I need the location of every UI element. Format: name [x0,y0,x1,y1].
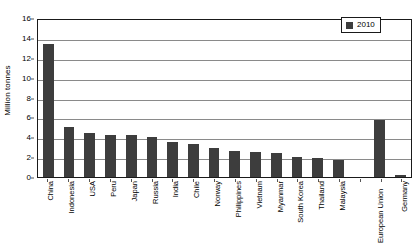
x-tick-label: European Union [376,181,385,243]
x-tick-mark [360,179,361,182]
x-tick-label: Chile [193,181,201,198]
bar [292,157,303,177]
bar [84,133,95,177]
bar-slot [59,20,80,177]
bar-slot [266,20,287,177]
bar-slot [245,20,266,177]
x-tick-label: India [172,181,180,197]
legend-swatch-2010 [346,22,353,29]
y-axis-tick-labels: 1614121086420 [14,14,34,179]
x-tick-slot: Myanmar [266,179,287,248]
bar-slot [100,20,121,177]
x-axis-tick-labels: ChinaIndonesiaUSAPeruJapanRussiaIndiaChi… [37,179,412,248]
x-tick-label: Myanmar [277,181,285,212]
bar [333,160,344,177]
bar [188,144,199,177]
x-tick-slot: European Union [370,179,391,248]
bar [395,175,406,177]
bar-slot [307,20,328,177]
y-tick-mark [31,19,34,20]
x-tick-label: Peru [110,181,118,197]
bar-slot [224,20,245,177]
x-tick-slot: Vietnam [245,179,266,248]
x-tick-label: Thailand [318,181,326,210]
x-tick-label: Indonesia [68,181,76,214]
bar-slot [328,20,349,177]
bars-container [38,20,411,177]
x-tick-slot: Norway [204,179,225,248]
y-axis-title-text: Million tonnes [3,65,12,115]
x-tick-label: Malaysia [339,181,347,211]
plot-area [37,19,412,178]
y-tick-mark [31,58,34,59]
x-tick-label: Norway [214,181,222,206]
x-tick-slot: Philippines [224,179,245,248]
x-tick-slot: Germany [391,179,412,248]
y-tick-mark [31,38,34,39]
bar [64,127,75,177]
x-tick-slot: South Korea [287,179,308,248]
bar-slot [38,20,59,177]
x-tick-label: Vietnam [256,181,264,208]
x-tick-slot [349,179,370,248]
x-tick-slot: India [162,179,183,248]
bar [374,120,385,177]
bar [271,153,282,177]
bar-slot [162,20,183,177]
x-tick-slot: USA [79,179,100,248]
bar [312,158,323,177]
bar [147,137,158,177]
x-tick-slot: Chile [183,179,204,248]
x-tick-label: Germany [401,181,409,212]
x-tick-label: Japan [131,181,139,201]
bar [105,135,116,177]
bar-slot [142,20,163,177]
x-tick-label: USA [89,181,97,196]
bar-chart: Million tonnes 1614121086420 2010 ChinaI… [0,0,417,248]
bar-slot [370,20,391,177]
x-tick-slot: China [37,179,58,248]
x-tick-label: South Korea [297,181,305,223]
y-tick-label: 16 [22,15,31,23]
x-tick-label: Philippines [235,181,243,217]
bar [43,44,54,177]
y-tick-label: 12 [22,55,31,63]
x-tick-slot: Peru [99,179,120,248]
y-tick-mark [31,98,34,99]
x-tick-slot: Thailand [308,179,329,248]
bar-slot-empty [349,20,370,177]
x-tick-label: China [47,181,55,201]
bar [167,142,178,177]
legend-label-2010: 2010 [357,21,375,29]
y-tick-mark [31,138,34,139]
bar-slot [79,20,100,177]
x-tick-slot: Russia [141,179,162,248]
x-tick-slot: Indonesia [58,179,79,248]
legend: 2010 [341,17,381,33]
y-tick-label: 10 [22,75,31,83]
y-tick-mark [31,178,34,179]
x-tick-slot: Malaysia [329,179,350,248]
bar [126,135,137,177]
bar-slot [390,20,411,177]
y-tick-label: 14 [22,35,31,43]
bar [250,152,261,177]
bar-slot [204,20,225,177]
x-tick-slot: Japan [120,179,141,248]
bar-slot [121,20,142,177]
bar [229,151,240,177]
y-tick-mark [31,118,34,119]
y-axis-title: Million tonnes [0,0,14,180]
y-tick-mark [31,158,34,159]
x-tick-label: Russia [152,181,160,204]
bar-slot [287,20,308,177]
y-tick-mark [31,78,34,79]
bar [209,148,220,177]
bar-slot [183,20,204,177]
